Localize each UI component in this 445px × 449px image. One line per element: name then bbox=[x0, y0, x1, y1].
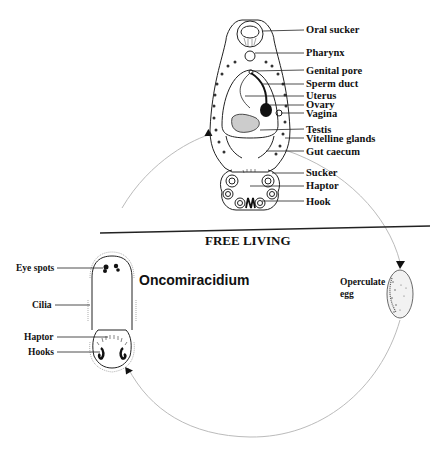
cycle-arrow-larva-to-adult bbox=[122, 134, 212, 208]
label-vagina: Vagina bbox=[306, 108, 338, 119]
label-sucker: Sucker bbox=[306, 167, 338, 178]
life-cycle-diagram: FREE LIVING bbox=[0, 0, 445, 449]
stage-label-oncomiracidium: Oncomiracidium bbox=[139, 272, 249, 288]
arrowhead-icon bbox=[204, 129, 214, 139]
cycle-arrow-egg-to-larva bbox=[128, 320, 400, 437]
label-haptor: Haptor bbox=[306, 180, 339, 191]
label-vitelline-glands: Vitelline glands bbox=[306, 133, 375, 144]
free-living-label: FREE LIVING bbox=[205, 233, 291, 248]
label-gut-caecum: Gut caecum bbox=[306, 146, 360, 157]
adult-leader-lines bbox=[245, 30, 304, 201]
label-pharynx: Pharynx bbox=[306, 47, 345, 58]
label-sperm-duct: Sperm duct bbox=[306, 78, 359, 89]
label-egg: egg bbox=[340, 289, 354, 299]
free-living-divider bbox=[100, 226, 430, 233]
label-oral-sucker: Oral sucker bbox=[306, 24, 360, 35]
cycle-arrow-adult-to-egg bbox=[285, 150, 400, 262]
adult-worm bbox=[210, 20, 290, 210]
label-genital-pore: Genital pore bbox=[306, 65, 362, 76]
label-hooks: Hooks bbox=[28, 347, 54, 357]
label-hook: Hook bbox=[306, 196, 331, 207]
label-larva-haptor: Haptor bbox=[24, 332, 54, 342]
arrowhead-icon bbox=[123, 365, 133, 375]
oncomiracidium-larva bbox=[88, 252, 136, 372]
arrowhead-icon bbox=[396, 261, 405, 269]
operculate-egg bbox=[387, 270, 413, 318]
label-cilia: Cilia bbox=[32, 300, 52, 310]
larva-leader-lines bbox=[55, 268, 108, 352]
label-operculate: Operculate bbox=[340, 277, 385, 287]
label-eye-spots: Eye spots bbox=[16, 263, 55, 273]
